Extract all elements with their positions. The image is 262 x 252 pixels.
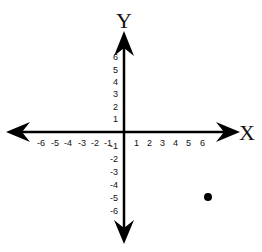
- coordinate-plane: Y X -6 -5 -4 -3 -2 -1 1 2 3 4 5 6 6 5 4 …: [0, 0, 262, 252]
- y-tick-label: 4: [113, 77, 118, 87]
- y-tick-label: -5: [110, 193, 118, 203]
- plotted-point: [204, 193, 212, 201]
- y-tick-label: -6: [110, 206, 118, 216]
- y-tick-labels: 6 5 4 3 2 1 -1 -2 -3 -4 -5 -6: [110, 52, 118, 216]
- y-axis-title: Y: [116, 8, 132, 33]
- x-tick-label: 3: [160, 138, 165, 148]
- x-tick-labels: -6 -5 -4 -3 -2 -1 1 2 3 4 5 6: [37, 138, 205, 148]
- y-tick-label: -4: [110, 180, 118, 190]
- y-tick-label: 6: [113, 52, 118, 62]
- x-tick-label: 1: [134, 138, 139, 148]
- x-tick-label: -6: [37, 138, 45, 148]
- y-tick-label: 1: [113, 114, 118, 124]
- x-tick-label: -5: [51, 138, 59, 148]
- x-tick-label: 5: [186, 138, 191, 148]
- y-tick-label: -2: [110, 154, 118, 164]
- y-tick-label: -3: [110, 167, 118, 177]
- x-tick-label: 2: [147, 138, 152, 148]
- y-tick-label: -1: [110, 141, 118, 151]
- x-tick-label: 4: [173, 138, 178, 148]
- x-tick-label: -3: [78, 138, 86, 148]
- x-tick-label: -4: [64, 138, 72, 148]
- y-tick-label: 5: [113, 65, 118, 75]
- x-tick-label: -2: [91, 138, 99, 148]
- y-tick-label: 2: [113, 102, 118, 112]
- y-tick-label: 3: [113, 89, 118, 99]
- x-tick-label: 6: [200, 138, 205, 148]
- x-axis-title: X: [239, 120, 255, 145]
